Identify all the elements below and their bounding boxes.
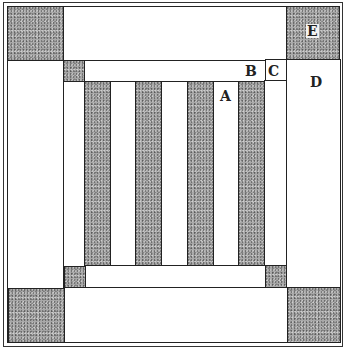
small-square-bottom-left: [64, 266, 86, 288]
stripe-dark-3: [187, 81, 214, 266]
stripe-light-1: [110, 81, 136, 266]
small-square-bottom-right: [265, 265, 287, 288]
border-strip-left: [7, 60, 64, 289]
small-square-top-left: [63, 60, 85, 82]
stripe-dark-4: [238, 81, 265, 266]
label-c: C: [268, 64, 279, 78]
inner-strip-right: [264, 80, 287, 266]
stripe-light-2: [161, 81, 188, 266]
corner-square-bottom-right: [287, 287, 341, 343]
stripe-light-3-a: [213, 81, 239, 266]
stripe-dark-2: [135, 81, 162, 266]
corner-square-bottom-left: [8, 288, 65, 343]
label-a: A: [220, 89, 231, 103]
label-b: B: [245, 64, 257, 78]
border-strip-bottom: [64, 287, 288, 343]
label-e: E: [306, 24, 319, 38]
border-strip-top: [63, 6, 287, 61]
inner-strip-bottom: [85, 265, 266, 288]
inner-strip-left: [63, 81, 85, 267]
label-d: D: [310, 75, 322, 89]
inner-strip-top-b: [84, 60, 266, 82]
stripe-dark-1: [84, 81, 111, 266]
corner-square-top-left: [7, 6, 64, 61]
border-strip-right-d: [286, 59, 341, 288]
